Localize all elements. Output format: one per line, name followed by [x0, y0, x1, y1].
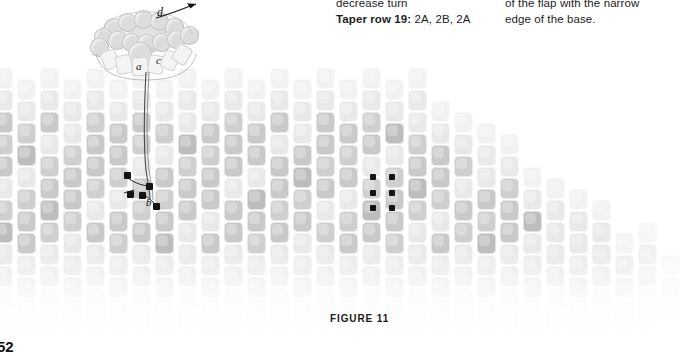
bead — [40, 134, 59, 155]
bead-highlight — [111, 213, 122, 224]
bead — [408, 68, 427, 89]
bead-highlight — [502, 268, 513, 279]
bead — [63, 123, 82, 144]
bead — [109, 211, 128, 232]
bead-highlight — [65, 213, 76, 224]
bead-highlight — [180, 312, 191, 323]
bead — [500, 200, 519, 221]
bead — [109, 299, 128, 320]
bead — [500, 134, 519, 155]
bead-highlight — [203, 147, 214, 158]
bead-highlight — [19, 81, 30, 92]
bead-highlight — [663, 301, 674, 312]
bead-highlight — [88, 114, 99, 125]
bead-highlight — [134, 158, 145, 169]
bead — [201, 189, 220, 210]
bead-highlight — [88, 202, 99, 213]
bead — [477, 321, 496, 342]
bead — [63, 145, 82, 166]
bead-highlight — [203, 169, 214, 180]
bead — [178, 156, 197, 177]
bead-highlight — [0, 202, 7, 213]
bead — [569, 211, 588, 232]
bead — [293, 123, 312, 144]
bead-highlight — [19, 235, 30, 246]
bead-highlight — [226, 180, 237, 191]
bead — [86, 178, 105, 199]
bead — [109, 79, 128, 100]
bead — [201, 277, 220, 298]
bead-highlight — [502, 136, 513, 147]
bead-highlight — [249, 257, 260, 268]
bead-highlight — [502, 312, 513, 323]
bead-highlight — [617, 301, 628, 312]
bead-highlight — [157, 191, 168, 202]
bead-highlight — [410, 158, 421, 169]
bead-highlight — [318, 246, 329, 257]
bead-highlight — [180, 92, 191, 103]
bead-highlight — [203, 279, 214, 290]
bead — [0, 222, 13, 243]
instruction-column-right: aligning the straight edge of the flap w… — [505, 0, 690, 27]
bead — [661, 277, 680, 298]
bead — [362, 134, 381, 155]
bead-highlight — [111, 103, 122, 114]
bead-highlight — [42, 92, 53, 103]
bead-highlight — [364, 92, 375, 103]
bead — [201, 321, 220, 342]
bead — [408, 156, 427, 177]
bead-highlight — [387, 323, 398, 334]
bead — [270, 68, 289, 89]
bead-highlight — [456, 202, 467, 213]
bead-highlight — [479, 323, 490, 334]
bead — [615, 233, 634, 254]
bead-highlight — [180, 246, 191, 257]
bead — [201, 79, 220, 100]
flat-bead — [114, 54, 133, 75]
bead-highlight — [433, 125, 444, 136]
bead-highlight — [456, 246, 467, 257]
bead-highlight — [88, 290, 99, 301]
bead-highlight — [295, 279, 306, 290]
bead-highlight — [157, 301, 168, 312]
bead — [178, 112, 197, 133]
bead-highlight — [134, 180, 145, 191]
bead — [224, 68, 243, 89]
bead-highlight — [387, 81, 398, 92]
bead — [523, 299, 542, 320]
bead-highlight — [157, 125, 168, 136]
bead-highlight — [341, 191, 352, 202]
bead-highlight — [295, 301, 306, 312]
bead-highlight — [157, 257, 168, 268]
bead — [431, 101, 450, 122]
bead — [270, 178, 289, 199]
bead-highlight — [42, 114, 53, 125]
round-bead — [180, 26, 199, 45]
bead-highlight — [456, 290, 467, 301]
bead — [40, 68, 59, 89]
bead-highlight — [525, 323, 536, 334]
bead-highlight — [249, 103, 260, 114]
bead — [40, 310, 59, 331]
figure-label-a: a — [136, 60, 142, 72]
bead — [201, 233, 220, 254]
bead — [17, 79, 36, 100]
bead-highlight — [111, 169, 122, 180]
bead — [339, 123, 358, 144]
bead-highlight — [157, 147, 168, 158]
bead — [40, 222, 59, 243]
bead — [385, 101, 404, 122]
bead — [546, 200, 565, 221]
bead-highlight — [295, 81, 306, 92]
bead-highlight — [548, 202, 559, 213]
bead — [385, 145, 404, 166]
bead-highlight — [594, 290, 605, 301]
bead — [270, 200, 289, 221]
bead-highlight — [364, 246, 375, 257]
bead — [0, 112, 13, 133]
bead-highlight — [571, 191, 582, 202]
bead-highlight — [456, 224, 467, 235]
bead — [0, 200, 13, 221]
bead-highlight — [295, 213, 306, 224]
bead-highlight — [318, 158, 329, 169]
